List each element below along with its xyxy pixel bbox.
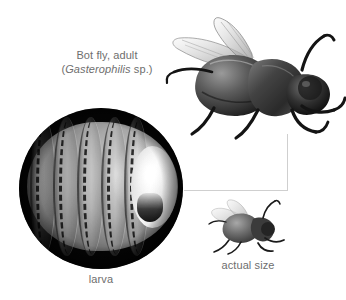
adult-fly-caption: Bot fly, adult (Gasterophilis sp.)	[42, 48, 172, 76]
larva-body	[27, 122, 178, 251]
larva-spine-row	[83, 120, 101, 254]
bot-fly-figure: Bot fly, adult (Gasterophilis sp.) larva…	[0, 0, 346, 300]
scientific-name-genus: Gasterophilis	[65, 63, 131, 75]
adult-fly-caption-common-name: Bot fly, adult	[42, 48, 172, 62]
adult-fly-image	[152, 6, 346, 138]
actual-size-caption: actual size	[208, 258, 288, 272]
scientific-name-species-suffix: sp.)	[131, 63, 153, 75]
leader-line-horizontal	[184, 190, 288, 191]
actual-size-fly-image	[205, 196, 291, 254]
larva-caption: larva	[61, 272, 141, 286]
larva-image	[19, 108, 183, 269]
leader-line-vertical	[287, 134, 288, 191]
larva-mouthparts	[137, 193, 163, 221]
larva-spine-row	[59, 120, 77, 254]
adult-fly-caption-scientific-name: (Gasterophilis sp.)	[42, 62, 172, 76]
